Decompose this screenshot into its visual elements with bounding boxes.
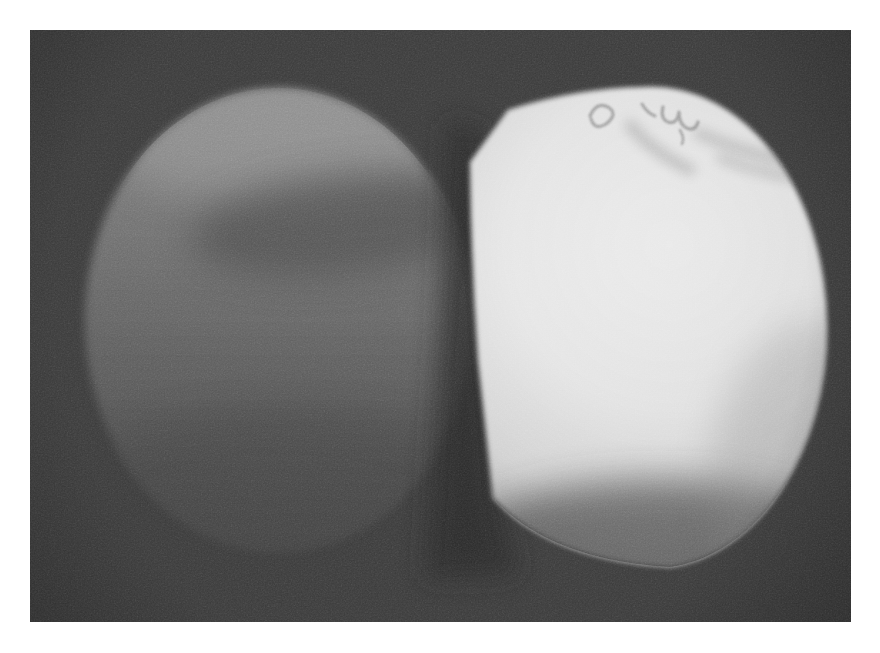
film-grain-overlay xyxy=(30,30,851,622)
scanned-page xyxy=(0,0,880,653)
photo-canvas xyxy=(30,30,851,622)
photograph xyxy=(30,30,851,622)
